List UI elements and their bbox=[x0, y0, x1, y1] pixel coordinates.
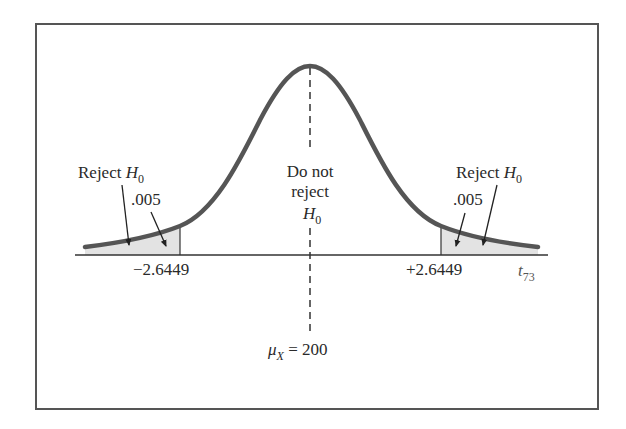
do-not-reject-line1: Do not bbox=[287, 162, 334, 181]
right-reject-arrow bbox=[483, 185, 497, 245]
left-reject-label: Reject H0 bbox=[78, 163, 144, 186]
t-distribution-diagram: Reject H0 .005 −2.6449 Reject H0 .005 +2… bbox=[0, 0, 626, 429]
left-area-label: .005 bbox=[131, 190, 161, 209]
lower-critical-value: −2.6449 bbox=[133, 260, 189, 279]
do-not-reject-line2: reject bbox=[291, 182, 329, 201]
right-area-label: .005 bbox=[453, 190, 483, 209]
left-reject-arrow bbox=[122, 185, 129, 245]
right-reject-label: Reject H0 bbox=[456, 163, 522, 186]
do-not-reject-h0: H0 bbox=[302, 204, 321, 227]
mean-label: μX = 200 bbox=[267, 340, 327, 363]
upper-critical-value: +2.6449 bbox=[406, 260, 462, 279]
axis-label-t73: t73 bbox=[518, 261, 535, 284]
